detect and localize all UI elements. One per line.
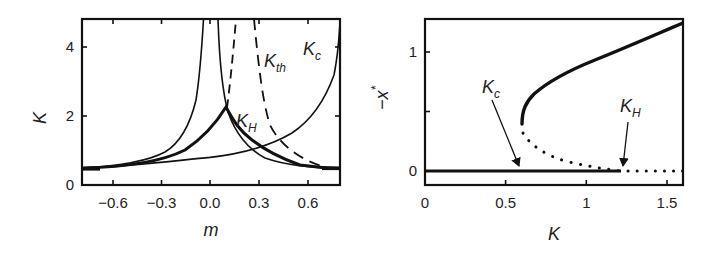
left-plot-area (82, 19, 340, 169)
left-chart: −0.6 −0.3 0.0 0.3 0.6 0 2 4 m K Kth Kc K… (30, 19, 340, 240)
left-xtick-label: 0.0 (200, 194, 221, 211)
right-x-axis-label: K (548, 224, 561, 244)
upper-branch-curve (522, 23, 683, 124)
left-xtick-label: 0.6 (298, 194, 319, 211)
right-y-axis-label: −x* (369, 86, 392, 111)
kh-arrow (623, 122, 628, 166)
kh-label: KH (236, 111, 257, 135)
left-ytick-label: 4 (66, 38, 74, 55)
kth-left-curve (227, 19, 236, 108)
kc-arrow (492, 100, 519, 166)
left-xtick-label: −0.6 (98, 194, 128, 211)
left-plot-frame (82, 19, 340, 185)
right-chart: 0 0.5 1 1.5 0 1 K −x* Kc KH (369, 19, 683, 244)
left-ytick-label: 0 (66, 176, 74, 193)
svg-text:−x*: −x* (369, 86, 392, 111)
boundary-left-curve (82, 19, 204, 168)
right-plot-area (425, 23, 683, 171)
kh-curve (82, 107, 340, 168)
kc-label: Kc (303, 39, 321, 63)
kc-arrow-label: Kc (482, 77, 500, 101)
right-xtick-label: 1 (582, 194, 590, 211)
left-xtick-label: 0.3 (249, 194, 270, 211)
left-y-ticks (82, 47, 340, 116)
kc-curve (82, 22, 340, 168)
right-xtick-label: 0.5 (495, 194, 516, 211)
left-xtick-label: −0.3 (147, 194, 177, 211)
right-xtick-label: 1.5 (657, 194, 678, 211)
figure: −0.6 −0.3 0.0 0.3 0.6 0 2 4 m K Kth Kc K… (0, 0, 714, 255)
right-ytick-label: 1 (409, 43, 417, 60)
left-x-axis-label: m (204, 220, 219, 240)
boundary-right-curve (218, 19, 340, 168)
right-plot-frame (425, 19, 683, 185)
right-ytick-label: 0 (409, 162, 417, 179)
left-ytick-label: 2 (66, 107, 74, 124)
left-y-axis-label: K (30, 111, 50, 124)
kth-label: Kth (264, 51, 286, 75)
kh-arrow-label: KH (620, 96, 641, 120)
unstable-branch-curve (523, 133, 621, 171)
right-xtick-label: 0 (421, 194, 429, 211)
